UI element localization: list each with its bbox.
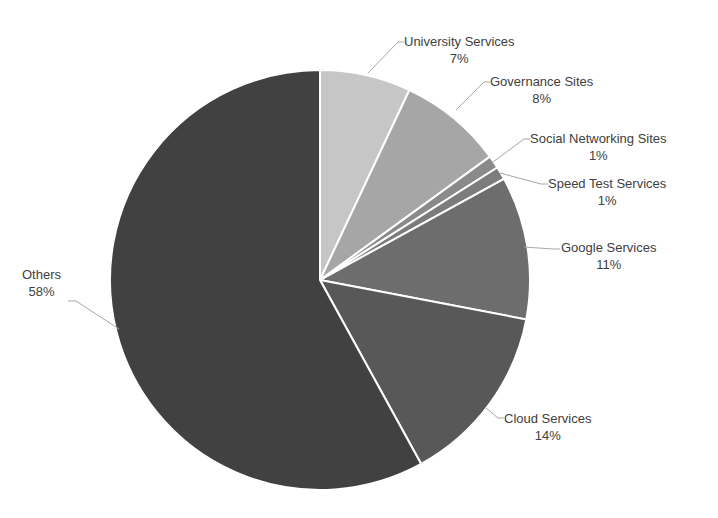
leader-line-university (368, 42, 404, 73)
label-google-services: Google Services 11% (561, 239, 656, 273)
label-percent: 1% (530, 147, 667, 164)
leader-line-cloud (486, 408, 504, 418)
label-name: Governance Sites (490, 73, 593, 90)
leader-line-speed (500, 173, 548, 184)
label-name: Cloud Services (504, 410, 591, 427)
label-name: Speed Test Services (548, 175, 666, 192)
leader-line-social (493, 139, 530, 162)
label-speed-test-services: Speed Test Services 1% (548, 175, 666, 209)
label-percent: 58% (22, 283, 61, 300)
label-percent: 1% (548, 192, 666, 209)
label-university-services: University Services 7% (404, 33, 515, 67)
label-governance-sites: Governance Sites 8% (490, 73, 593, 107)
label-percent: 7% (404, 50, 515, 67)
label-name: Social Networking Sites (530, 130, 667, 147)
label-percent: 8% (490, 90, 593, 107)
label-name: Google Services (561, 239, 656, 256)
label-percent: 11% (561, 256, 656, 273)
label-social-networking-sites: Social Networking Sites 1% (530, 130, 667, 164)
label-name: Others (22, 266, 61, 283)
label-percent: 14% (504, 427, 591, 444)
label-name: University Services (404, 33, 515, 50)
leader-line-governance (456, 82, 490, 110)
label-cloud-services: Cloud Services 14% (504, 410, 591, 444)
leader-line-google (524, 247, 560, 249)
label-others: Others 58% (22, 266, 61, 300)
